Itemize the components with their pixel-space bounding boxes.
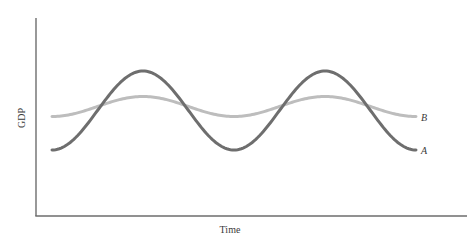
series-a-line	[52, 71, 416, 150]
series-a-label: A	[420, 145, 428, 156]
series-b-label: B	[421, 112, 427, 123]
x-axis-title: Time	[220, 224, 241, 235]
y-axis-title: GDP	[16, 108, 27, 128]
chart: B A Time GDP	[0, 0, 467, 241]
